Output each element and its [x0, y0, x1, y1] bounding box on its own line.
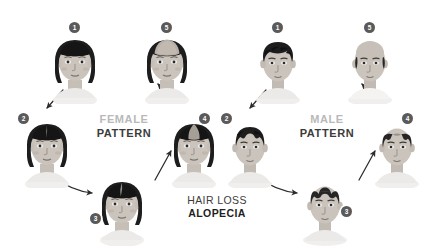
female-head-icon-stage-4 — [163, 110, 225, 188]
male-label-line2: PATTERN — [281, 127, 373, 139]
male-head-icon-stage-5 — [339, 26, 401, 104]
female-label-line2: PATTERN — [78, 127, 170, 139]
hair-loss-text: HAIR LOSS — [172, 194, 262, 206]
stage-badge-female-3: 3 — [90, 213, 101, 224]
stage-badge-female-1: 1 — [69, 22, 80, 33]
female-head-icon-stage-3 — [91, 168, 153, 246]
stage-badge-male-2: 2 — [221, 113, 232, 124]
stage-badge-female-4: 4 — [199, 113, 210, 124]
stage-badge-female-5: 5 — [161, 22, 172, 33]
female-head-icon-stage-1 — [44, 26, 106, 104]
stage-badge-male-1: 1 — [272, 22, 283, 33]
female-head-icon-stage-5 — [136, 26, 198, 104]
male-pattern-label: MALE PATTERN — [281, 113, 373, 139]
male-head-icon-stage-4 — [366, 110, 428, 188]
hair-loss-alopecia-label: HAIR LOSS ALOPECIA — [172, 194, 262, 219]
alopecia-text: ALOPECIA — [172, 207, 262, 219]
male-label-line1: MALE — [281, 113, 373, 125]
stage-badge-male-3: 3 — [341, 206, 352, 217]
stage-badge-male-4: 4 — [402, 113, 413, 124]
female-label-line1: FEMALE — [78, 113, 170, 125]
stage-badge-female-2: 2 — [18, 113, 29, 124]
male-head-icon-stage-1 — [247, 26, 309, 104]
stage-badge-male-5: 5 — [364, 22, 375, 33]
female-pattern-label: FEMALE PATTERN — [78, 113, 170, 139]
